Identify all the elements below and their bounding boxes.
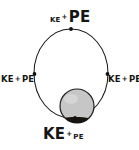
apoapsis-pe-text: PE (69, 10, 91, 25)
energy-label-periapsis: KE+PE (43, 126, 84, 142)
apoapsis-plus-sign: + (61, 14, 69, 21)
left-plus-sign: + (14, 76, 22, 83)
energy-label-right: KE+PE (108, 69, 139, 85)
periapsis-marker (73, 116, 77, 120)
periapsis-plus-sign: + (65, 131, 73, 138)
energy-label-left: KE+PE (1, 69, 34, 85)
energy-label-apoapsis: KE+PE (50, 9, 90, 25)
periapsis-pe-text: PE (73, 134, 83, 141)
apoapsis-ke-text: KE (50, 17, 61, 24)
left-ke-text: KE (1, 75, 14, 84)
periapsis-ke-text: KE (43, 127, 65, 142)
left-pe-text: PE (22, 75, 34, 84)
orbit-energy-diagram: KE+PE KE+PE KE+PE KE+PE (0, 0, 139, 150)
right-plus-sign: + (121, 76, 129, 83)
planet-highlight (64, 94, 78, 104)
right-ke-text: KE (108, 75, 121, 84)
right-pe-text: PE (129, 75, 139, 84)
apoapsis-marker (69, 27, 73, 31)
